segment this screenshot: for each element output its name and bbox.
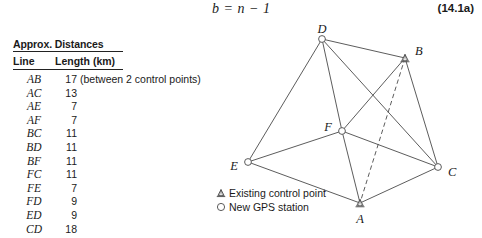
- column-header-line: Line: [13, 55, 55, 67]
- cell-note: [77, 141, 80, 155]
- node-marker-triangle-A: [356, 199, 365, 206]
- network-nodes: [245, 36, 442, 207]
- table-title: Approx. Distances: [13, 38, 123, 52]
- column-header-length: Length (km): [55, 55, 123, 67]
- network-edges: [248, 39, 438, 203]
- network-edge-DB: [322, 39, 405, 58]
- cell-line: BD: [13, 141, 55, 155]
- table-row: AB17(between 2 control points): [13, 73, 208, 87]
- cell-note: (between 2 control points): [77, 73, 201, 87]
- network-diagram-svg: ABCDEF Existing control pointNew GPS sta…: [210, 16, 482, 238]
- network-edge-FA: [342, 131, 360, 203]
- network-edge-BA: [360, 58, 405, 203]
- cell-line: CD: [13, 223, 55, 237]
- cell-line: FC: [13, 168, 55, 182]
- node-label-B: B: [415, 44, 423, 58]
- cell-line: BC: [13, 127, 55, 141]
- cell-length: 7: [55, 182, 77, 196]
- node-marker-circle-C: [435, 164, 442, 171]
- node-label-A: A: [355, 212, 364, 226]
- cell-line: FD: [13, 195, 55, 209]
- cell-note: [77, 100, 80, 114]
- cell-note: [77, 195, 80, 209]
- table-row: AE7: [13, 100, 208, 114]
- node-marker-triangle-B: [401, 54, 410, 61]
- table-row: AF7: [13, 114, 208, 128]
- network-edge-BC: [405, 58, 438, 167]
- cell-line: AC: [13, 87, 55, 101]
- cell-note: [77, 114, 80, 128]
- equation-number: (14.1a): [438, 2, 474, 14]
- cell-line: AF: [13, 114, 55, 128]
- cell-length: 11: [55, 141, 77, 155]
- node-label-E: E: [229, 159, 238, 173]
- cell-note: [77, 168, 80, 182]
- table-body: AB17(between 2 control points)AC13AE7AF7…: [13, 70, 208, 236]
- table-row: ED9: [13, 209, 208, 223]
- cell-line: BF: [13, 155, 55, 169]
- cell-line: AB: [13, 73, 55, 87]
- network-edge-AC: [360, 167, 438, 203]
- legend-label-1: Existing control point: [229, 187, 326, 199]
- node-label-F: F: [323, 120, 332, 134]
- cell-length: 17: [55, 73, 77, 87]
- cell-length: 11: [55, 155, 77, 169]
- cell-note: [77, 182, 80, 196]
- node-marker-circle-D: [319, 36, 326, 43]
- cell-length: 11: [55, 168, 77, 182]
- cell-note: [77, 223, 80, 237]
- cell-length: 7: [55, 100, 77, 114]
- network-edge-DF: [322, 39, 342, 131]
- cell-length: 11: [55, 127, 77, 141]
- table-row: BD11: [13, 141, 208, 155]
- cell-length: 18: [55, 223, 77, 237]
- cell-line: ED: [13, 209, 55, 223]
- node-marker-circle-E: [245, 159, 252, 166]
- cell-note: [77, 209, 80, 223]
- node-marker-circle-F: [339, 128, 346, 135]
- table-row: BF11: [13, 155, 208, 169]
- cell-note: [77, 155, 80, 169]
- table-row: FE7: [13, 182, 208, 196]
- network-legend: Existing control pointNew GPS station: [217, 187, 326, 213]
- cell-line: AE: [13, 100, 55, 114]
- node-label-D: D: [316, 22, 326, 36]
- approx-distances-table: Approx. Distances Line Length (km) AB17(…: [13, 38, 208, 236]
- network-edge-DC: [322, 39, 438, 167]
- cell-length: 13: [55, 87, 77, 101]
- table-row: BC11: [13, 127, 208, 141]
- table-row: AC13: [13, 87, 208, 101]
- table-row: FD9: [13, 195, 208, 209]
- cell-length: 7: [55, 114, 77, 128]
- cell-line: FE: [13, 182, 55, 196]
- table-row: CD18: [13, 223, 208, 237]
- legend-label-2: New GPS station: [229, 201, 309, 213]
- node-label-C: C: [448, 165, 457, 179]
- cell-note: [77, 87, 80, 101]
- network-edge-DE: [248, 39, 322, 162]
- table-row: FC11: [13, 168, 208, 182]
- legend-triangle-icon: [217, 190, 226, 197]
- survey-network-figure: ABCDEF Existing control pointNew GPS sta…: [210, 16, 482, 238]
- equation-formula: b = n − 1: [212, 1, 270, 17]
- table-header-row: Line Length (km): [13, 52, 123, 70]
- cell-length: 9: [55, 195, 77, 209]
- cell-note: [77, 127, 80, 141]
- cell-length: 9: [55, 209, 77, 223]
- network-edge-FE: [248, 131, 342, 162]
- network-edge-FC: [342, 131, 438, 167]
- legend-circle-icon: [217, 203, 224, 210]
